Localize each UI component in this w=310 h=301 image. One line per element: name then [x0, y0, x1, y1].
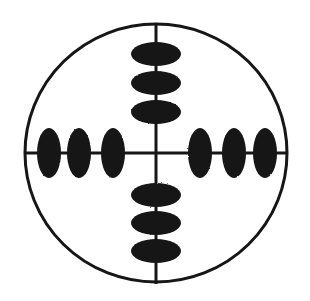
marker-right-3: [253, 128, 277, 178]
reticle-figure: [0, 0, 310, 301]
marker-left-3: [37, 128, 61, 178]
marker-down-3: [131, 239, 181, 263]
reticle-canvas: [0, 0, 310, 301]
marker-down-2: [131, 211, 181, 235]
marker-right-2: [222, 128, 246, 178]
marker-up-2: [131, 71, 181, 95]
marker-up-1: [131, 42, 181, 66]
marker-left-2: [67, 128, 91, 178]
marker-down-1: [131, 183, 181, 207]
marker-right-1: [188, 128, 212, 178]
marker-left-1: [101, 128, 125, 178]
marker-up-3: [131, 100, 181, 124]
